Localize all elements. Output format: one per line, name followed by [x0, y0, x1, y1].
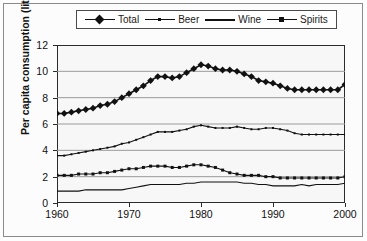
data-point-spirits: [99, 171, 102, 174]
y-tick-mark: [53, 124, 57, 125]
data-point-beer: [164, 131, 166, 133]
data-point-spirits: [344, 175, 346, 178]
data-point-beer: [178, 130, 180, 132]
data-point-spirits: [178, 166, 181, 169]
data-point-total: [68, 109, 75, 116]
data-point-beer: [279, 128, 281, 130]
data-point-spirits: [156, 165, 159, 168]
data-point-spirits: [264, 175, 267, 178]
data-point-beer: [78, 152, 80, 154]
data-point-total: [284, 85, 291, 92]
x-tick-mark: [57, 203, 58, 207]
data-point-beer: [344, 134, 345, 136]
data-point-beer: [229, 127, 231, 129]
data-point-beer: [286, 130, 288, 132]
y-tick-label: 0: [30, 198, 48, 208]
data-point-total: [205, 63, 212, 70]
y-tick-mark: [53, 150, 57, 151]
data-point-spirits: [228, 171, 231, 174]
data-point-spirits: [214, 166, 217, 169]
data-point-total: [234, 68, 241, 75]
data-point-total: [61, 110, 68, 117]
y-tick-label: 6: [30, 119, 48, 129]
data-point-spirits: [70, 174, 73, 177]
data-point-total: [270, 80, 277, 87]
x-tick-label: 1990: [253, 208, 293, 220]
legend-label-spirits: Spirits: [300, 14, 328, 25]
y-tick-mark: [53, 98, 57, 99]
data-point-beer: [265, 127, 267, 129]
legend-item-total: Total: [85, 14, 139, 25]
y-tick-label: 4: [30, 145, 48, 155]
legend-item-beer: Beer: [145, 14, 199, 25]
data-point-total: [306, 86, 313, 93]
data-point-total: [262, 78, 269, 85]
x-tick-label: 1970: [109, 208, 149, 220]
data-point-spirits: [92, 173, 95, 176]
data-point-total: [248, 73, 255, 80]
data-point-spirits: [185, 165, 188, 168]
legend-marker-small-dot-icon: [145, 14, 175, 25]
data-point-spirits: [257, 174, 260, 177]
data-point-beer: [222, 127, 224, 129]
data-point-total: [219, 67, 226, 74]
data-point-beer: [294, 132, 296, 134]
data-point-beer: [337, 134, 339, 136]
y-tick-label: 2: [30, 172, 48, 182]
data-point-total: [255, 77, 262, 84]
data-point-spirits: [142, 166, 145, 169]
legend-label-total: Total: [118, 14, 139, 25]
data-point-total: [104, 101, 111, 108]
data-point-beer: [236, 126, 238, 128]
data-point-beer: [315, 134, 317, 136]
data-point-spirits: [243, 174, 246, 177]
data-point-spirits: [286, 176, 289, 179]
data-point-total: [169, 75, 176, 82]
series-line-wine: [57, 182, 345, 191]
data-point-beer: [193, 126, 195, 128]
data-point-beer: [150, 134, 152, 136]
data-point-beer: [121, 143, 123, 145]
data-point-spirits: [63, 174, 66, 177]
legend-item-spirits: Spirits: [267, 14, 328, 25]
data-point-spirits: [84, 173, 87, 176]
data-point-total: [154, 73, 161, 80]
data-point-spirits: [221, 169, 224, 172]
data-point-beer: [301, 134, 303, 136]
data-point-beer: [157, 131, 159, 133]
data-point-beer: [258, 128, 260, 130]
data-point-spirits: [77, 173, 80, 176]
x-tick-label: 1960: [37, 208, 77, 220]
data-point-beer: [128, 141, 130, 143]
data-point-total: [118, 94, 125, 101]
chart-legend: Total Beer Wine Spirits: [76, 10, 337, 29]
x-tick-mark: [273, 203, 274, 207]
data-point-spirits: [279, 176, 282, 179]
data-point-total: [57, 110, 60, 117]
data-point-spirits: [135, 167, 138, 170]
x-tick-label: 2000: [325, 208, 365, 220]
chart-figure: Total Beer Wine Spirits Per capita consu…: [0, 0, 367, 241]
legend-label-beer: Beer: [178, 14, 199, 25]
data-point-total: [162, 73, 169, 80]
data-point-total: [298, 86, 305, 93]
data-point-beer: [200, 124, 202, 126]
data-point-spirits: [315, 176, 318, 179]
data-point-spirits: [113, 170, 116, 173]
data-point-total: [90, 105, 97, 112]
data-point-spirits: [192, 163, 195, 166]
data-point-beer: [63, 155, 65, 157]
data-point-spirits: [171, 166, 174, 169]
data-point-beer: [57, 155, 58, 157]
data-point-total: [183, 69, 190, 76]
series-line-beer: [57, 125, 345, 155]
data-point-beer: [92, 149, 94, 151]
y-tick-label: 8: [30, 93, 48, 103]
data-point-spirits: [336, 176, 339, 179]
data-point-total: [277, 82, 284, 89]
y-tick-mark: [53, 71, 57, 72]
data-point-beer: [114, 145, 116, 147]
legend-item-wine: Wine: [205, 14, 261, 25]
data-point-spirits: [164, 165, 167, 168]
data-point-beer: [99, 148, 101, 150]
